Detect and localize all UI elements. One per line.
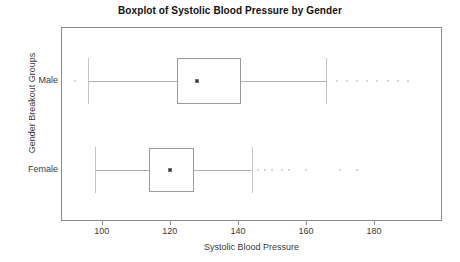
chart-title: Boxplot of Systolic Blood Pressure by Ge…	[0, 5, 460, 16]
outlier-point-male	[74, 80, 76, 82]
x-axis-tick-label: 160	[286, 226, 326, 236]
x-axis-tick-label: 180	[354, 226, 394, 236]
x-axis-tick-mark	[238, 221, 239, 225]
outlier-point-male	[387, 80, 389, 82]
box-male	[177, 58, 242, 104]
median-marker-male	[195, 79, 199, 83]
outlier-point-male	[407, 80, 409, 82]
outlier-point-female	[271, 169, 273, 171]
x-axis-tick-label: 140	[218, 226, 258, 236]
whisker-high-female	[194, 170, 252, 171]
whisker-cap-low-male	[88, 58, 89, 104]
median-marker-female	[168, 168, 172, 172]
whisker-high-male	[241, 81, 326, 82]
outlier-point-female	[339, 169, 341, 171]
whisker-cap-low-female	[95, 147, 96, 193]
x-axis-tick-mark	[170, 221, 171, 225]
x-axis-tick-label: 120	[150, 226, 190, 236]
x-axis-title: Systolic Blood Pressure	[61, 242, 442, 252]
outlier-point-male	[397, 80, 399, 82]
whisker-low-male	[88, 81, 176, 82]
x-axis-tick-mark	[306, 221, 307, 225]
whisker-low-female	[95, 170, 149, 171]
x-axis-tick-label: 100	[82, 226, 122, 236]
whisker-cap-high-female	[252, 147, 253, 193]
y-axis-title: Gender Breakout Groups	[27, 23, 37, 183]
boxplot-figure: Boxplot of Systolic Blood Pressure by Ge…	[0, 0, 460, 262]
whisker-cap-high-male	[326, 58, 327, 104]
y-axis-tick-label-male: Male	[0, 75, 58, 85]
outlier-point-female	[288, 169, 290, 171]
y-axis-tick-label-female: Female	[0, 164, 58, 174]
outlier-point-female	[305, 169, 307, 171]
x-axis-tick-mark	[102, 221, 103, 225]
outlier-point-male	[346, 80, 348, 82]
outlier-point-male	[356, 80, 358, 82]
x-axis-tick-mark	[374, 221, 375, 225]
outlier-point-female	[356, 169, 358, 171]
outlier-point-male	[336, 80, 338, 82]
